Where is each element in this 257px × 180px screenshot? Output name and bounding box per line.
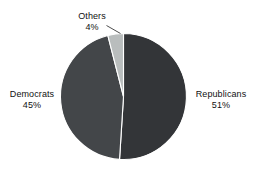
pie-label-democrats-name: Democrats [2, 89, 62, 100]
pie-label-others-name: Others [62, 11, 122, 22]
pie-label-republicans: Republicans 51% [189, 89, 253, 110]
pie-label-others: Others 4% [62, 11, 122, 32]
pie-label-others-value: 4% [62, 22, 122, 33]
pie-chart: Others 4% Democrats 45% Republicans 51% [0, 0, 257, 180]
pie-slice-republicans[interactable] [120, 34, 187, 160]
pie-label-democrats-value: 45% [2, 100, 62, 111]
pie-label-republicans-name: Republicans [189, 89, 253, 100]
pie-label-democrats: Democrats 45% [2, 89, 62, 110]
pie-label-republicans-value: 51% [189, 100, 253, 111]
